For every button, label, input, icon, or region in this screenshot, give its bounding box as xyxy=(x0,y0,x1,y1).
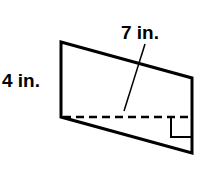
leader-line xyxy=(124,44,145,111)
side-label: 4 in. xyxy=(2,70,40,91)
parallelogram-diagram: 7 in. 4 in. xyxy=(0,0,201,175)
height-label: 7 in. xyxy=(121,22,159,43)
right-angle-marker xyxy=(171,117,191,137)
